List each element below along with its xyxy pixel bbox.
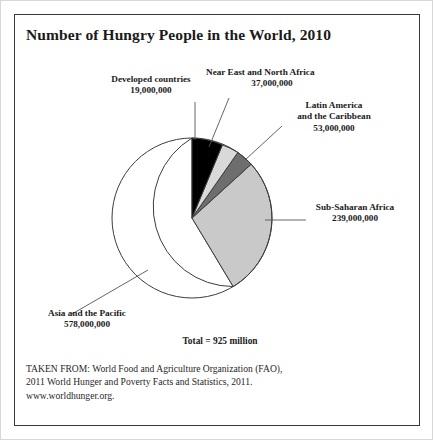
label-sub-saharan-africa: Sub-Saharan Africa 239,000,000 bbox=[296, 202, 414, 225]
label-asia-pacific-name: Asia and the Pacific bbox=[48, 308, 126, 318]
label-latin-america-value: 53,000,000 bbox=[313, 123, 354, 133]
figure-page: Number of Hungry People in the World, 20… bbox=[0, 0, 434, 441]
label-sub-saharan-africa-name: Sub-Saharan Africa bbox=[316, 202, 394, 212]
label-developed-countries-name: Developed countries bbox=[111, 74, 190, 84]
label-near-east-value: 37,000,000 bbox=[206, 78, 338, 89]
source-note-line-3: www.worldhunger.org. bbox=[26, 389, 406, 402]
label-asia-pacific: Asia and the Pacific 578,000,000 bbox=[16, 308, 158, 331]
label-sub-saharan-africa-value: 239,000,000 bbox=[332, 213, 378, 223]
leader-line-near-east bbox=[209, 98, 229, 147]
total-label: Total = 925 million bbox=[120, 336, 320, 346]
label-latin-america: Latin America and the Caribbean 53,000,0… bbox=[276, 100, 392, 134]
source-note: TAKEN FROM: World Food and Agriculture O… bbox=[26, 362, 406, 402]
label-latin-america-name-1: Latin America bbox=[306, 100, 363, 110]
label-developed-countries-value: 19,000,000 bbox=[130, 85, 171, 95]
label-near-east-north-africa: Near East and North Africa 37,000,000 bbox=[206, 67, 356, 90]
source-note-line-2: 2011 World Hunger and Poverty Facts and … bbox=[26, 375, 406, 388]
source-note-line-1: TAKEN FROM: World Food and Agriculture O… bbox=[26, 362, 406, 375]
label-near-east-name: Near East and North Africa bbox=[206, 67, 315, 77]
label-asia-pacific-value: 578,000,000 bbox=[64, 319, 110, 329]
label-latin-america-name-2: and the Caribbean bbox=[297, 111, 371, 121]
label-developed-countries: Developed countries 19,000,000 bbox=[92, 74, 210, 97]
